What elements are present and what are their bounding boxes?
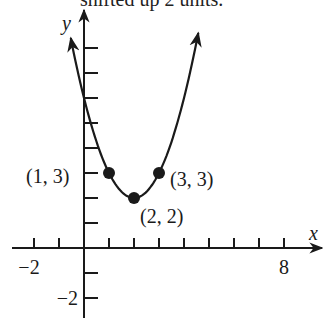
parabola-graph: (1, 3)(2, 2)(3, 3) xy−28−2 xyxy=(0,0,325,318)
axis-labels: xy−28−2 xyxy=(18,12,318,309)
labeled-points: (1, 3)(2, 2)(3, 3) xyxy=(26,165,213,228)
point-label: (1, 3) xyxy=(26,165,69,188)
y-tick-label: −2 xyxy=(57,287,78,309)
point-label: (3, 3) xyxy=(170,168,213,191)
axes xyxy=(12,10,322,318)
data-point xyxy=(128,192,140,204)
y-axis-label: y xyxy=(60,12,71,35)
data-point xyxy=(153,167,165,179)
data-point xyxy=(103,167,115,179)
x-tick-label: 8 xyxy=(279,256,289,278)
x-tick-label: −2 xyxy=(18,256,39,278)
point-label: (2, 2) xyxy=(140,205,183,228)
x-axis-label: x xyxy=(308,222,318,244)
